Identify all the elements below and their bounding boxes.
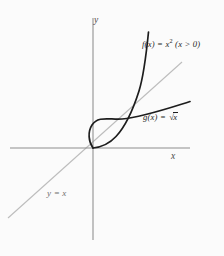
curve-label-f-prefix: f(x) = x: [142, 39, 169, 49]
function-graph-figure: y x f(x) = x2 (x > 0) g(x) = √x y = x: [0, 0, 224, 256]
curve-label-g-prefix: g(x) =: [143, 112, 168, 122]
radicand: x: [173, 112, 178, 122]
curve-label-f: f(x) = x2 (x > 0): [142, 38, 200, 48]
identity-line-y-equals-x: [8, 62, 182, 218]
curve-label-g: g(x) = √x: [143, 112, 178, 122]
curve-f-x-squared: [93, 32, 149, 148]
identity-line-label: y = x: [47, 189, 67, 198]
curve-g-sqrt-x: [89, 102, 190, 149]
curve-label-f-domain: (x > 0): [173, 39, 201, 49]
y-axis-label: y: [94, 16, 98, 26]
radical-icon: √x: [168, 112, 178, 122]
x-axis-label: x: [171, 152, 175, 162]
